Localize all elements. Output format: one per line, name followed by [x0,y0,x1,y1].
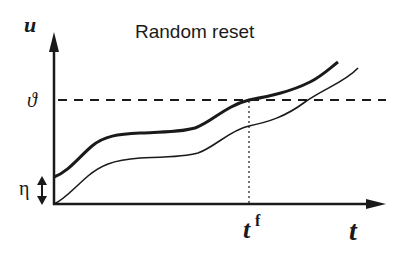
eta-up-arrow-icon [37,176,47,185]
x-axis-label: t [349,215,358,246]
reset-noise-indicator: η [19,176,47,205]
threshold-label: ϑ [27,89,38,111]
x-axis-arrow-icon [366,199,386,209]
firing-time-superscript: f [255,212,261,229]
y-axis-arrow-icon [49,32,59,52]
lower-trajectory-curve [54,68,358,204]
upper-trajectory-curve [54,62,338,177]
y-axis-label: u [24,12,36,37]
diagram-title: Random reset [135,21,255,42]
threshold-line: ϑ [27,89,386,111]
firing-time-label: t f [243,212,261,244]
random-reset-diagram: Random reset u t ϑ t f η [0,0,406,255]
x-axis: t [53,199,386,246]
reset-noise-label: η [19,177,29,200]
firing-time-t: t [243,215,251,244]
eta-down-arrow-icon [37,196,47,205]
